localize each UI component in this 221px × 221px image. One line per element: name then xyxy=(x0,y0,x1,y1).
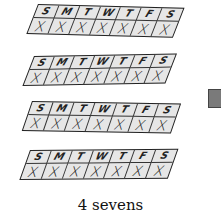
x-mark: X xyxy=(146,163,172,178)
side-block xyxy=(208,89,221,108)
x-mark: X xyxy=(145,68,171,83)
day-label: S xyxy=(157,8,183,22)
week-strip-4: S M T W T F S X X X X X X X xyxy=(19,149,178,180)
x-mark: X xyxy=(149,117,175,132)
week-strip-1: S M T W T F S X X X X X X X xyxy=(26,4,184,38)
figure-caption: 4 sevens xyxy=(0,196,221,214)
week-strip-2: S M T W T F S X X X X X X X xyxy=(22,54,177,86)
day-label: S xyxy=(154,104,179,117)
day-label: S xyxy=(152,150,178,163)
week-strip-3: S M T W T F S X X X X X X X xyxy=(22,101,181,134)
x-mark: X xyxy=(152,21,179,37)
day-label: S xyxy=(150,55,175,68)
